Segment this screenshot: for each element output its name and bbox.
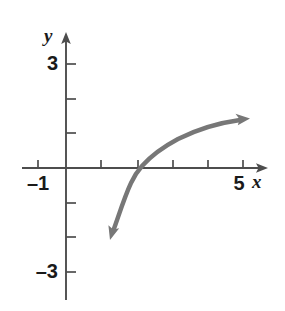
x-axis-tick-label-5: 5 — [228, 173, 250, 193]
graph-figure: y 3 –3 –1 5 x — [0, 0, 285, 311]
log-curve — [114, 120, 241, 230]
x-axis-tick-label-negative-1: –1 — [18, 173, 58, 193]
y-axis-tick-label-3: 3 — [34, 53, 58, 73]
y-axis-name-label: y — [44, 26, 52, 45]
x-axis-name-label: x — [252, 172, 262, 191]
y-axis-tick-label-negative-3: –3 — [22, 261, 58, 281]
